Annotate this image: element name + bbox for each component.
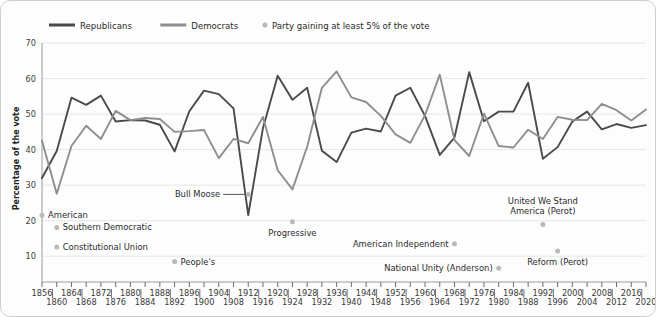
x-tick-label-1932: 1932 <box>311 297 332 307</box>
series-line-democrats <box>42 71 646 193</box>
series-line-republicans <box>42 72 646 215</box>
third-party-label-8-1: America (Perot) <box>510 206 575 216</box>
chart-figure: RepublicansDemocratsParty gaining at lea… <box>0 0 656 317</box>
legend-label-1: Democrats <box>191 21 238 31</box>
third-party-dot-4 <box>246 192 251 197</box>
x-tick-label-2020: 2020 <box>636 297 656 307</box>
x-tick-label-1988: 1988 <box>518 297 539 307</box>
x-tick-label-1916: 1916 <box>253 297 274 307</box>
third-party-dot-8 <box>540 222 545 227</box>
third-party-dot-2 <box>54 244 59 249</box>
x-tick-label-1996: 1996 <box>547 297 568 307</box>
third-party-dot-1 <box>54 225 59 230</box>
x-tick-label-1868: 1868 <box>76 297 97 307</box>
y-tick-70: 70 <box>26 38 36 48</box>
third-party-dot-5 <box>290 219 295 224</box>
y-axis-title: Percentage of the vote <box>12 106 21 210</box>
y-axis-tick-labels: 10203040506070 <box>26 38 36 261</box>
x-tick-label-1900: 1900 <box>194 297 215 307</box>
x-tick-label-1940: 1940 <box>341 297 362 307</box>
x-tick-label-1964: 1964 <box>429 297 450 307</box>
x-tick-label-1876: 1876 <box>105 297 126 307</box>
x-tick-label-1892: 1892 <box>164 297 185 307</box>
third-party-dot-7 <box>496 266 501 271</box>
x-tick-label-1972: 1972 <box>459 297 480 307</box>
third-party-label-8-0: United We Stand <box>508 196 578 206</box>
x-tick-label-1948: 1948 <box>370 297 391 307</box>
vote-share-line-chart: RepublicansDemocratsParty gaining at lea… <box>1 1 656 317</box>
x-tick-label-1860: 1860 <box>46 297 67 307</box>
legend-dot-third-party <box>262 22 267 27</box>
third-party-label-4: Bull Moose <box>175 189 220 199</box>
third-party-annotations: AmericanSouthern DemocraticConstitutiona… <box>40 189 589 273</box>
third-party-dot-6 <box>452 241 457 246</box>
third-party-label-0-0: American <box>48 210 88 220</box>
third-party-dot-3 <box>172 259 177 264</box>
third-party-label-3-0: People's <box>181 257 216 267</box>
y-tick-50: 50 <box>26 109 36 119</box>
chart-legend: RepublicansDemocratsParty gaining at lea… <box>49 21 429 31</box>
third-party-label-7-0: National Unity (Anderson) <box>384 263 493 273</box>
third-party-label-5-0: Progressive <box>268 228 316 238</box>
third-party-label-2-0: Constitutional Union <box>63 242 148 252</box>
x-tick-label-2004: 2004 <box>577 297 598 307</box>
third-party-label-9-0: Reform (Perot) <box>527 257 588 267</box>
x-axis-tick-labels: 1856186018641868187218761880188418881892… <box>32 282 656 307</box>
legend-label-2: Party gaining at least 5% of the vote <box>272 21 429 31</box>
y-tick-60: 60 <box>26 74 36 84</box>
y-tick-30: 30 <box>26 180 36 190</box>
x-tick-label-1908: 1908 <box>223 297 244 307</box>
x-tick-label-1956: 1956 <box>400 297 421 307</box>
data-series <box>42 71 646 215</box>
y-tick-40: 40 <box>26 145 36 155</box>
third-party-label-1-0: Southern Democratic <box>63 222 152 232</box>
third-party-label-6-0: American Independent <box>353 239 449 249</box>
y-axis-label: Percentage of the vote <box>12 106 21 210</box>
x-tick-label-1924: 1924 <box>282 297 303 307</box>
y-tick-10: 10 <box>26 251 36 261</box>
third-party-dot-9 <box>555 248 560 253</box>
y-tick-20: 20 <box>26 216 36 226</box>
x-tick-label-1980: 1980 <box>488 297 509 307</box>
third-party-dot-0 <box>40 213 45 218</box>
x-tick-label-2012: 2012 <box>606 297 627 307</box>
x-tick-label-1884: 1884 <box>135 297 156 307</box>
legend-label-0: Republicans <box>80 21 132 31</box>
